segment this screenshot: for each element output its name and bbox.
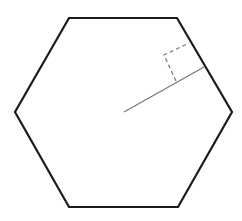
right-angle-marker (164, 43, 189, 81)
apothem-line (124, 67, 204, 112)
hexagon (15, 18, 232, 207)
hexagon-diagram (0, 0, 242, 221)
